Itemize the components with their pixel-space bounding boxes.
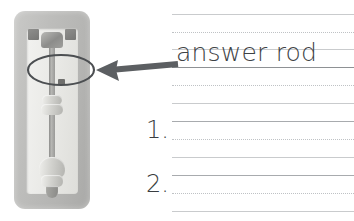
rule-line-6: [172, 103, 354, 104]
rod-collar-lower: [41, 104, 63, 115]
worksheet-page: answer rod 1. 2.: [0, 0, 354, 221]
rod-hub: [41, 32, 63, 48]
rule-line-12: [172, 211, 354, 212]
rule-line-4: [172, 67, 354, 68]
rod-tip: [46, 186, 58, 198]
rule-line-7: [172, 121, 354, 122]
mounting-lug-right: [65, 29, 76, 40]
rule-line-9: [172, 157, 354, 158]
prompt-number-1: 1.: [146, 118, 169, 142]
rule-line-10: [172, 175, 354, 176]
prompt-number-2: 2.: [146, 172, 169, 196]
pointer-arrow: [96, 60, 178, 81]
answer-rod-device-photo: [14, 11, 90, 209]
rule-line-1: [172, 14, 354, 15]
rule-line-11: [172, 193, 354, 194]
rule-line-5: [172, 85, 354, 86]
vocabulary-word-answer-rod: answer rod: [176, 40, 317, 66]
mounting-lug-left: [28, 29, 39, 40]
rod-nub: [58, 79, 65, 85]
rule-line-2: [172, 32, 354, 33]
rule-line-8: [172, 139, 354, 140]
